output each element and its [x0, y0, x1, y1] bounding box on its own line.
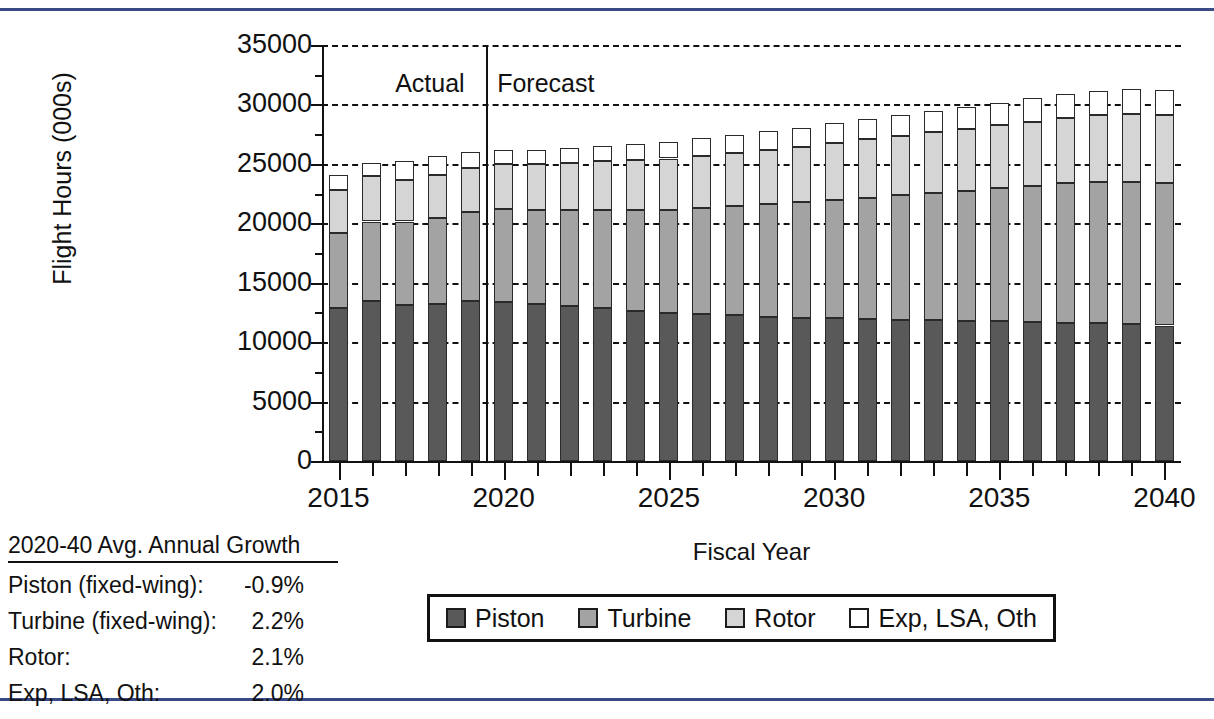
- bar-segment-exp-lsa-oth: [858, 119, 877, 139]
- legend-item[interactable]: Piston: [446, 604, 544, 633]
- bar-segment-exp-lsa-oth: [957, 107, 976, 129]
- bar-segment-piston: [957, 321, 976, 461]
- bar-segment-exp-lsa-oth: [1155, 90, 1174, 116]
- bar-segment-rotor: [858, 139, 877, 197]
- bar-segment-exp-lsa-oth: [329, 175, 348, 190]
- legend-label: Exp, LSA, Oth: [878, 604, 1036, 633]
- bar-segment-exp-lsa-oth: [692, 138, 711, 155]
- stacked-bar: [725, 45, 744, 461]
- bar-segment-rotor: [957, 129, 976, 191]
- bar-segment-piston: [593, 308, 612, 461]
- bar-segment-piston: [527, 304, 546, 461]
- bar-segment-turbine: [891, 195, 910, 319]
- y-tick: [311, 45, 322, 47]
- bar-segment-piston: [692, 314, 711, 461]
- y-tick-minor: [315, 75, 322, 77]
- y-tick: [311, 461, 322, 463]
- legend-item[interactable]: Turbine: [578, 604, 691, 633]
- x-tick: [438, 463, 440, 476]
- bar-segment-rotor: [428, 175, 447, 218]
- stacked-bar: [891, 45, 910, 461]
- x-tick: [735, 463, 737, 476]
- actual-forecast-divider: [486, 45, 488, 461]
- y-tick-minor: [315, 253, 322, 255]
- y-tick: [311, 342, 322, 344]
- bar-segment-turbine: [825, 200, 844, 318]
- bar-segment-piston: [1122, 324, 1141, 461]
- y-tick-label: 25000: [192, 150, 312, 177]
- bar-segment-piston: [924, 320, 943, 461]
- legend-item[interactable]: Rotor: [725, 604, 815, 633]
- growth-row-value: 2.2%: [252, 608, 338, 635]
- bar-segment-rotor: [362, 176, 381, 222]
- bar-segment-turbine: [329, 233, 348, 307]
- x-axis-title: Fiscal Year: [322, 538, 1181, 566]
- y-tick: [311, 402, 322, 404]
- bar-segment-exp-lsa-oth: [560, 148, 579, 163]
- x-tick: [405, 463, 407, 476]
- legend-item[interactable]: Exp, LSA, Oth: [849, 604, 1036, 633]
- gridline: [322, 342, 1181, 344]
- bar-segment-rotor: [1155, 115, 1174, 183]
- growth-table-rows: Piston (fixed-wing):-0.9%Turbine (fixed-…: [8, 572, 338, 707]
- growth-row-label: Rotor:: [8, 644, 71, 671]
- y-tick: [311, 104, 322, 106]
- x-tick-label: 2030: [774, 482, 894, 514]
- bar-segment-turbine: [990, 188, 1009, 321]
- flight-hours-chart-figure: Flight Hours (000s) 05000100001500020000…: [0, 14, 1214, 694]
- growth-row-label: Exp, LSA, Oth:: [8, 680, 160, 707]
- bar-segment-exp-lsa-oth: [428, 156, 447, 175]
- x-tick: [999, 463, 1001, 480]
- growth-row: Exp, LSA, Oth:2.0%: [8, 680, 338, 707]
- bar-segment-rotor: [626, 160, 645, 210]
- bar-segment-exp-lsa-oth: [792, 128, 811, 147]
- bar-segment-rotor: [1089, 115, 1108, 182]
- growth-row-value: -0.9%: [244, 572, 338, 599]
- legend-swatch-icon: [578, 608, 598, 628]
- x-tick-label: 2015: [279, 482, 399, 514]
- y-tick-minor: [315, 194, 322, 196]
- x-tick: [966, 463, 968, 476]
- bar-segment-rotor: [1122, 114, 1141, 182]
- growth-row-label: Turbine (fixed-wing):: [8, 608, 217, 635]
- gridline: [322, 164, 1181, 166]
- growth-row-value: 2.0%: [252, 680, 338, 707]
- gridline: [322, 283, 1181, 285]
- bar-segment-turbine: [1155, 183, 1174, 325]
- x-tick: [372, 463, 374, 476]
- bar-segment-turbine: [1122, 182, 1141, 324]
- stacked-bar: [428, 45, 447, 461]
- bar-segment-piston: [329, 308, 348, 461]
- bar-segment-exp-lsa-oth: [659, 142, 678, 159]
- stacked-bar: [1089, 45, 1108, 461]
- y-tick-label: 15000: [192, 269, 312, 296]
- plot-area: Actual Forecast: [322, 45, 1181, 461]
- bar-segment-rotor: [792, 147, 811, 203]
- bar-segment-turbine: [692, 208, 711, 314]
- stacked-bar: [825, 45, 844, 461]
- bar-segment-piston: [395, 305, 414, 461]
- stacked-bar: [858, 45, 877, 461]
- bar-segment-rotor: [891, 136, 910, 195]
- stacked-bar: [1122, 45, 1141, 461]
- gridline: [322, 45, 1181, 47]
- y-tick: [311, 164, 322, 166]
- gridline: [322, 104, 1181, 106]
- bar-segment-piston: [1155, 326, 1174, 461]
- bar-segment-exp-lsa-oth: [626, 144, 645, 160]
- bar-segment-exp-lsa-oth: [825, 123, 844, 143]
- bar-segment-rotor: [759, 150, 778, 205]
- bar-segment-rotor: [494, 164, 513, 209]
- bar-segment-piston: [725, 315, 744, 461]
- stacked-bar: [1155, 45, 1174, 461]
- bar-segment-exp-lsa-oth: [1122, 89, 1141, 114]
- x-tick: [537, 463, 539, 476]
- stacked-bar: [626, 45, 645, 461]
- bar-segment-piston: [792, 318, 811, 461]
- stacked-bar: [362, 45, 381, 461]
- y-tick-label: 30000: [192, 90, 312, 117]
- bar-segment-rotor: [924, 132, 943, 193]
- bar-segment-piston: [1023, 322, 1042, 461]
- bar-segment-piston: [362, 301, 381, 461]
- stacked-bar: [957, 45, 976, 461]
